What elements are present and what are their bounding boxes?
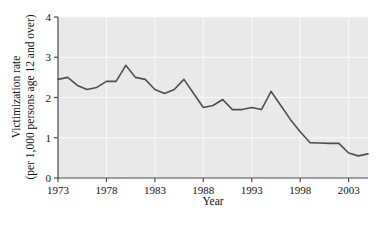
- y-axis-title-line1: Victimization rate: [10, 56, 22, 139]
- x-tick-label: 1973: [47, 184, 70, 196]
- y-axis-title-line2: (per 1,000 persons age 12 and over): [24, 14, 37, 179]
- x-tick-label: 1998: [289, 184, 312, 196]
- chart-figure: 01234 1973197819831988199319982003 Year …: [0, 0, 382, 225]
- x-tick-label: 1983: [144, 184, 167, 196]
- chart-canvas: 01234 1973197819831988199319982003 Year …: [0, 0, 382, 225]
- y-tick-label: 1: [46, 132, 52, 144]
- y-tick-label: 0: [46, 172, 52, 184]
- x-tick-label: 1978: [95, 184, 118, 196]
- y-tick-label: 2: [46, 92, 52, 104]
- y-tick-label: 4: [46, 11, 52, 23]
- x-tick-label: 2003: [338, 184, 361, 196]
- x-tick-label: 1993: [241, 184, 264, 196]
- x-axis-title: Year: [202, 195, 223, 207]
- y-tick-label: 3: [46, 51, 52, 63]
